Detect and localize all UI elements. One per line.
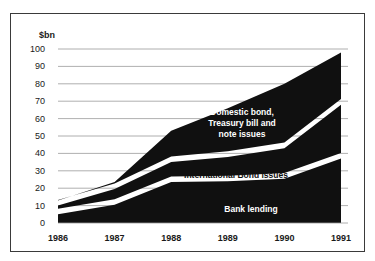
chart-frame: $bn 0102030405060708090100 1986198719881… <box>10 13 365 252</box>
series-areas <box>58 52 341 223</box>
plot-canvas <box>11 14 366 253</box>
area-chart: $bn 0102030405060708090100 1986198719881… <box>11 14 366 253</box>
x-axis-tick-marks <box>115 223 285 229</box>
